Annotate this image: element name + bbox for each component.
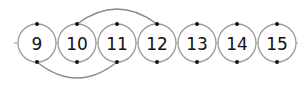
bottom-dot [195, 60, 199, 64]
bottom-dot [115, 60, 119, 64]
arc-bottom-9-to-11 [37, 62, 117, 78]
bottom-dot [35, 60, 39, 64]
number-label: 10 [66, 34, 88, 54]
number-circle-12: 12 [138, 22, 176, 64]
number-circle-11: 11 [98, 22, 136, 64]
bottom-dot [155, 60, 159, 64]
number-circle-14: 14 [218, 22, 256, 64]
number-circle-10: 10 [58, 22, 96, 64]
bottom-dot [235, 60, 239, 64]
bottom-dot [275, 60, 279, 64]
arc-top-10-to-12 [77, 9, 157, 24]
number-circle-15: 15 [258, 22, 296, 64]
top-dot [35, 22, 39, 26]
number-circle-diagram: 9101112131415 [0, 0, 306, 86]
top-dot [75, 22, 79, 26]
top-dot [115, 22, 119, 26]
number-circle-13: 13 [178, 22, 216, 64]
number-circle-9: 9 [18, 22, 56, 64]
number-label: 11 [106, 34, 128, 54]
top-dot [195, 22, 199, 26]
number-label: 15 [266, 34, 288, 54]
top-dot [155, 22, 159, 26]
number-label: 12 [146, 34, 168, 54]
bottom-dot [75, 60, 79, 64]
number-label: 9 [32, 34, 43, 54]
number-label: 14 [226, 34, 248, 54]
number-label: 13 [186, 34, 208, 54]
top-dot [275, 22, 279, 26]
top-dot [235, 22, 239, 26]
